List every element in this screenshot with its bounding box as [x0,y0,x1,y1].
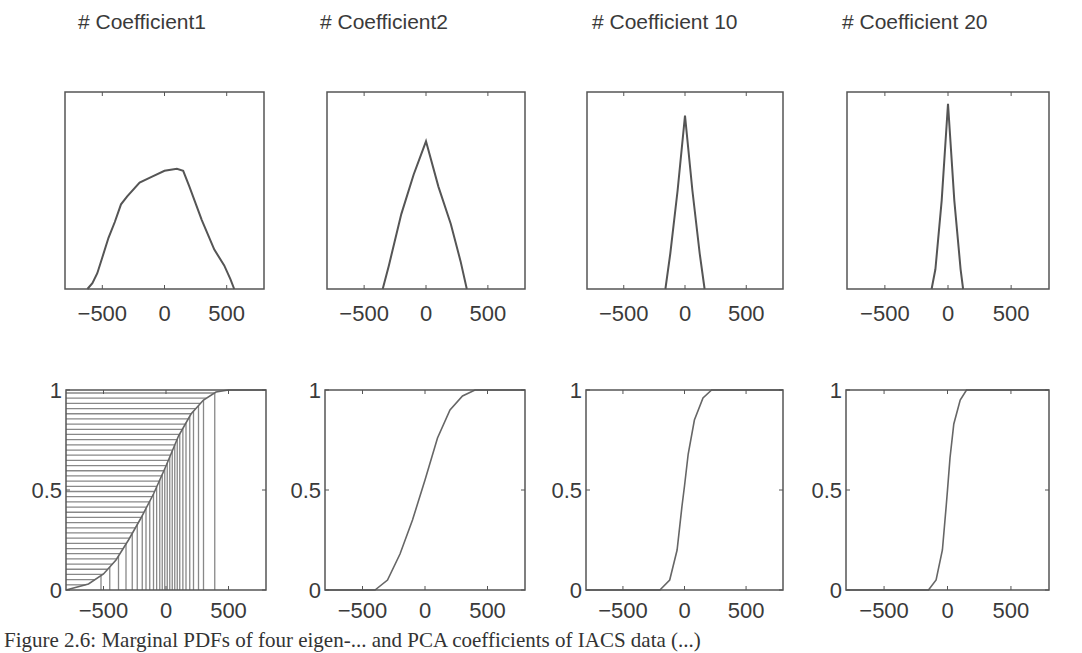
axes-box [847,92,1049,289]
y-tick-label: 1 [309,378,321,403]
cdf-plot-2: −500050000.51 [290,378,525,623]
axes-box [66,390,266,590]
cdf-plot-1: −500050000.51 [31,378,266,623]
x-tick-label: 0 [941,598,953,623]
y-tick-label: 0 [309,578,321,603]
y-tick-label: 0.5 [31,478,62,503]
x-tick-label: 500 [210,598,247,623]
y-tick-label: 0.5 [290,478,321,503]
y-tick-label: 0.5 [811,478,842,503]
y-tick-label: 1 [50,378,62,403]
cdf-hatching [66,393,215,590]
x-tick-label: 0 [419,598,431,623]
data-curve [383,141,467,289]
y-tick-label: 0.5 [551,478,582,503]
x-tick-label: −500 [339,301,389,326]
y-tick-label: 1 [570,378,582,403]
x-tick-label: 0 [678,598,690,623]
x-tick-label: 0 [158,301,170,326]
y-tick-label: 0 [570,578,582,603]
x-tick-label: 0 [942,301,954,326]
x-tick-label: −500 [598,598,648,623]
pdf-plot-4: −5000500 [847,92,1049,326]
cdf-plot-3: −500050000.51 [551,378,783,623]
y-tick-label: 0 [830,578,842,603]
data-curve [846,390,1049,590]
pdf-plot-2: −5000500 [327,92,525,326]
x-tick-label: −500 [860,301,910,326]
data-curve [586,390,783,590]
axes-box [327,92,525,289]
x-tick-label: 0 [679,301,691,326]
x-tick-label: 0 [160,598,172,623]
y-tick-label: 1 [830,378,842,403]
x-tick-label: 500 [208,301,245,326]
pdf-plot-3: −5000500 [587,92,783,326]
data-curve [932,104,964,289]
pdf-plot-1: −5000500 [65,92,264,326]
x-tick-label: 500 [470,301,507,326]
data-curve [66,390,266,590]
x-tick-label: 500 [993,301,1030,326]
x-tick-label: −500 [338,598,388,623]
x-tick-label: −500 [79,598,129,623]
x-tick-label: 500 [728,301,765,326]
cdf-plot-4: −500050000.51 [811,378,1049,623]
axes-box [325,390,525,590]
x-tick-label: 500 [469,598,506,623]
x-tick-label: 500 [993,598,1030,623]
data-curve [325,390,525,590]
data-curve [87,169,234,289]
axes-box [65,92,264,289]
x-tick-label: −500 [599,301,649,326]
x-tick-label: −500 [78,301,128,326]
x-tick-label: −500 [859,598,909,623]
x-tick-label: 500 [728,598,765,623]
data-curve [665,116,704,289]
y-tick-label: 0 [50,578,62,603]
x-tick-label: 0 [420,301,432,326]
figure-caption: Figure 2.6: Marginal PDFs of four eigen-… [4,628,701,653]
